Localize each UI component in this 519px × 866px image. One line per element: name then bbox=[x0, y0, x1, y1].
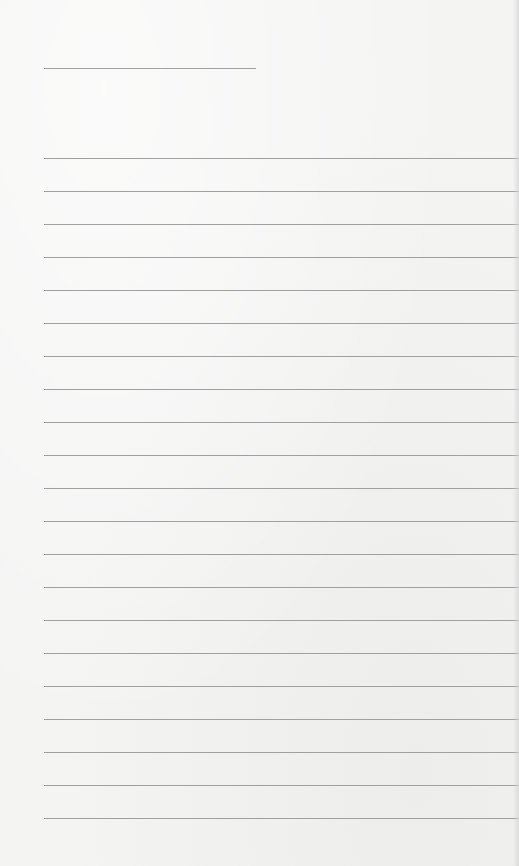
ruled-line[interactable] bbox=[44, 620, 519, 621]
ruled-line[interactable] bbox=[44, 818, 519, 819]
ruled-line[interactable] bbox=[44, 290, 519, 291]
ruled-line[interactable] bbox=[44, 455, 519, 456]
ruled-line[interactable] bbox=[44, 521, 519, 522]
page-edge-shadow bbox=[513, 0, 519, 866]
ruled-line[interactable] bbox=[44, 785, 519, 786]
ruled-line[interactable] bbox=[44, 356, 519, 357]
ruled-line[interactable] bbox=[44, 422, 519, 423]
ruled-line[interactable] bbox=[44, 653, 519, 654]
ruled-line[interactable] bbox=[44, 257, 519, 258]
ruled-line[interactable] bbox=[44, 719, 519, 720]
ruled-line[interactable] bbox=[44, 587, 519, 588]
ruled-line[interactable] bbox=[44, 158, 519, 159]
lined-paper-sheet bbox=[0, 0, 519, 866]
ruled-line[interactable] bbox=[44, 686, 519, 687]
ruled-line[interactable] bbox=[44, 389, 519, 390]
title-write-line[interactable] bbox=[44, 68, 256, 69]
ruled-line[interactable] bbox=[44, 323, 519, 324]
ruled-line[interactable] bbox=[44, 488, 519, 489]
ruled-line[interactable] bbox=[44, 191, 519, 192]
ruled-line[interactable] bbox=[44, 752, 519, 753]
ruled-line[interactable] bbox=[44, 224, 519, 225]
ruled-line[interactable] bbox=[44, 554, 519, 555]
